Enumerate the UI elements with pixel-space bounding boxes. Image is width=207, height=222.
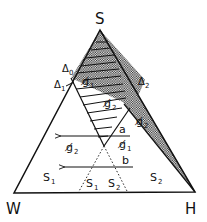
- delta1-sub: 1: [61, 85, 65, 93]
- delta0-sub: 0: [69, 69, 73, 77]
- region-g2-upper: g̸: [102, 97, 111, 110]
- region-s1-left-sub: 1: [51, 178, 55, 186]
- vertex-label-h: H: [185, 200, 196, 218]
- region-g1-upper-sub: 1: [90, 82, 94, 90]
- region-g2-wedge: g̸: [134, 115, 143, 128]
- region-g1-center-sub: 1: [127, 145, 131, 153]
- delta1-label: Δ: [54, 79, 61, 90]
- region-s1-lower: S: [86, 177, 93, 190]
- region-s2-right: S: [150, 171, 157, 184]
- region-g2-wedge-sub: 2: [144, 122, 148, 130]
- region-g1-upper: g̸: [80, 75, 89, 88]
- region-s1-lower-sub: 1: [94, 184, 98, 192]
- region-g2-upper-sub: 2: [112, 104, 116, 112]
- delta2-label: Δ: [138, 76, 145, 87]
- path-label-b: b: [122, 154, 129, 167]
- region-s2-lower-sub: 2: [116, 184, 120, 192]
- path-label-a: a: [119, 123, 126, 136]
- delta2-sub: 2: [145, 82, 149, 90]
- region-g1-center: g̸: [117, 138, 126, 151]
- region-g2-left-sub: 2: [74, 148, 78, 156]
- region-s2-right-sub: 2: [158, 178, 162, 186]
- vertex-label-s: S: [95, 10, 105, 28]
- delta0-label: Δ: [62, 63, 69, 74]
- region-s2-lower: S: [108, 177, 115, 190]
- region-g2-left: g̸: [64, 141, 73, 154]
- vertex-label-w: W: [6, 200, 21, 218]
- ternary-phase-diagram: S W H Δ 0 Δ 1 Δ 2 g̸ 1 g̸ 2 g̸ 2 g̸ 2 g̸…: [0, 0, 207, 222]
- region-s1-left: S: [43, 171, 50, 184]
